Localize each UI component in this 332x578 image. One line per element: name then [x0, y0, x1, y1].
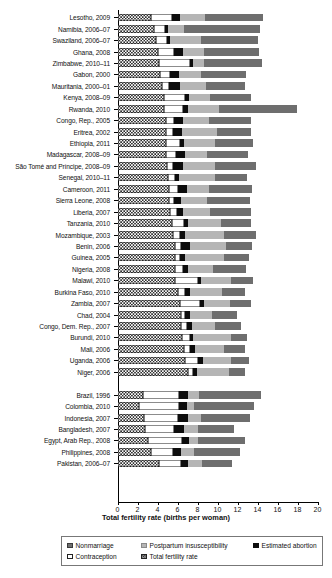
chart-row: Congo, Rep., 2005 [0, 115, 332, 126]
segment-total-fertility-rate [118, 105, 164, 113]
category-label: Ghana, 2008 [0, 49, 114, 56]
bar-track [118, 309, 332, 320]
stacked-bar [118, 105, 297, 113]
chart-row: Namibia, 2006–07 [0, 23, 332, 34]
bar-track [118, 161, 332, 172]
segment-postpartum-insusceptibility [179, 71, 201, 79]
segment-postpartum-insusceptibility [187, 185, 209, 193]
bar-track [118, 149, 332, 160]
stacked-bar [118, 288, 245, 296]
stacked-bar [118, 162, 256, 170]
x-axis-tick-label: 4 [156, 506, 160, 513]
chart-row: Zimbabwe, 2010–11 [0, 58, 332, 69]
segment-postpartum-insusceptibility [170, 36, 201, 44]
segment-postpartum-insusceptibility [190, 288, 222, 296]
category-label: Mauritania, 2000–01 [0, 83, 114, 90]
x-axis-tick-label: 6 [176, 506, 180, 513]
segment-total-fertility-rate [118, 59, 159, 67]
stacked-bar [118, 265, 246, 273]
x-axis-tick-label: 0 [116, 506, 120, 513]
chart-row: Mozambique, 2003 [0, 229, 332, 240]
segment-postpartum-insusceptibility [185, 151, 207, 159]
bar-track [118, 23, 332, 34]
stacked-bar [118, 219, 251, 227]
segment-nonmarriage [202, 460, 232, 468]
segment-postpartum-insusceptibility [183, 208, 210, 216]
segment-nonmarriage [215, 162, 256, 170]
segment-contraception [166, 139, 180, 147]
segment-contraception [166, 117, 174, 125]
chart-row: Mali, 2006 [0, 344, 332, 355]
segment-contraception [145, 425, 174, 433]
chart-row: Sierra Leone, 2008 [0, 195, 332, 206]
bar-track [118, 344, 332, 355]
category-label: Niger, 2006 [0, 369, 114, 376]
stacked-bar [118, 174, 247, 182]
x-axis-tick-label: 16 [274, 506, 282, 513]
segment-contraception [175, 265, 183, 273]
x-axis-tick-label: 10 [214, 506, 222, 513]
stacked-bar [118, 14, 263, 22]
segment-nonmarriage [209, 185, 252, 193]
category-label: Eritrea, 2002 [0, 129, 114, 136]
bar-track [118, 332, 332, 343]
chart-row: Senegal, 2010–11 [0, 172, 332, 183]
category-label: Lesotho, 2009 [0, 14, 114, 21]
bar-track [118, 321, 332, 332]
segment-postpartum-insusceptibility [189, 94, 210, 102]
segment-estimated-abortion [178, 185, 187, 193]
chart-row: Lesotho, 2009 [0, 12, 332, 23]
chart-row: Kenya, 2008–09 [0, 92, 332, 103]
legend-row-1: Nonmarriage Postpartum insusceptibility … [67, 540, 317, 551]
stacked-bar [118, 402, 254, 410]
segment-postpartum-insusceptibility [190, 311, 212, 319]
segment-nonmarriage [207, 151, 248, 159]
x-axis-tick [318, 502, 319, 505]
segment-estimated-abortion [169, 82, 180, 90]
segment-nonmarriage [201, 71, 246, 79]
segment-nonmarriage [224, 254, 249, 262]
segment-postpartum-insusceptibility [185, 231, 224, 239]
segment-postpartum-insusceptibility [189, 437, 198, 445]
chart-row: Rwanda, 2010 [0, 104, 332, 115]
bar-track [118, 447, 332, 458]
chart-row: Malawi, 2010 [0, 275, 332, 286]
x-axis-tick [278, 502, 279, 505]
segment-postpartum-insusceptibility [179, 174, 215, 182]
chart-row: Colombia, 2010 [0, 401, 332, 412]
segment-estimated-abortion [181, 242, 190, 250]
category-label: Liberia, 2007 [0, 209, 114, 216]
segment-contraception [164, 105, 183, 113]
segment-postpartum-insusceptibility [193, 59, 204, 67]
category-label: Zambia, 2007 [0, 300, 114, 307]
chart-row: Benin, 2006 [0, 241, 332, 252]
x-axis-tick [238, 502, 239, 505]
segment-nonmarriage [204, 48, 259, 56]
chart-row: Madagascar, 2008–09 [0, 149, 332, 160]
segment-total-fertility-rate [118, 128, 166, 136]
chart-row: Indonesia, 2007 [0, 412, 332, 423]
chart-row: Niger, 2006 [0, 367, 332, 378]
segment-estimated-abortion [173, 448, 181, 456]
legend-label-postpartum: Postpartum insusceptibility [150, 542, 228, 549]
chart-row-spacer [0, 378, 332, 389]
category-label: Philippines, 2008 [0, 449, 114, 456]
segment-nonmarriage [210, 94, 251, 102]
segment-nonmarriage [226, 242, 252, 250]
category-label: Swaziland, 2006–07 [0, 37, 114, 44]
category-label: Colombia, 2010 [0, 403, 114, 410]
chart-row: Pakistan, 2006–07 [0, 458, 332, 469]
segment-postpartum-insusceptibility [181, 197, 207, 205]
bar-track [118, 367, 332, 378]
chart-row: São Tomé and Príncipe, 2008–09 [0, 161, 332, 172]
x-axis-tick-label: 8 [196, 506, 200, 513]
bar-track [118, 389, 332, 400]
stacked-bar [118, 437, 245, 445]
chart-row: Burkina Faso, 2010 [0, 287, 332, 298]
bar-track [118, 126, 332, 137]
segment-total-fertility-rate [118, 311, 181, 319]
bar-track [118, 92, 332, 103]
stacked-bar [118, 151, 248, 159]
segment-contraception [182, 334, 190, 342]
x-axis-tick-label: 12 [234, 506, 242, 513]
